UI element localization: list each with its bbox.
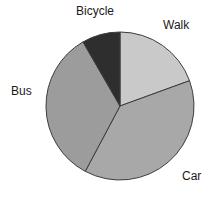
pie-chart: Bicycle Walk Bus Car — [0, 0, 221, 201]
pie-label-walk: Walk — [163, 19, 189, 32]
pie-label-bus: Bus — [11, 85, 32, 98]
pie-label-bicycle: Bicycle — [76, 5, 114, 18]
pie-label-car: Car — [182, 170, 201, 183]
pie-slice-group — [46, 32, 194, 180]
